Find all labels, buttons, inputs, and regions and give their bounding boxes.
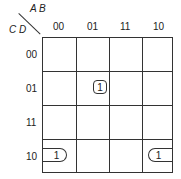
row-header-01: 01	[26, 84, 37, 94]
row-header-11: 11	[26, 118, 36, 128]
grid-line	[43, 105, 172, 106]
col-header-11: 11	[120, 22, 130, 32]
cell-10-00-group: 1	[43, 148, 67, 162]
grid-line	[43, 139, 172, 140]
grid-line	[43, 71, 172, 72]
col-header-00: 00	[53, 22, 64, 32]
col-header-10: 10	[153, 22, 164, 32]
col-variable-label: A B	[30, 4, 46, 14]
cell-01-01-group: 1	[93, 80, 107, 94]
row-variable-label: C D	[9, 25, 26, 35]
kmap-grid: 1 1 1	[42, 37, 173, 173]
cell-10-10-group: 1	[148, 148, 172, 162]
row-header-10: 10	[26, 152, 37, 162]
col-header-01: 01	[87, 22, 98, 32]
row-header-00: 00	[26, 50, 37, 60]
